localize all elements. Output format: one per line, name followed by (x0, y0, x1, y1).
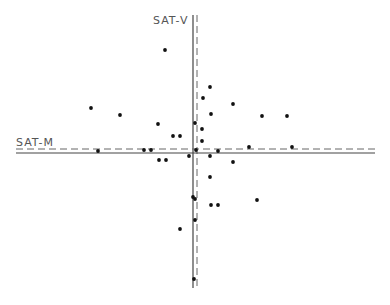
data-points (89, 48, 294, 281)
data-point (208, 175, 212, 179)
data-point (89, 106, 93, 110)
x-axis-label: SAT-M (16, 136, 54, 149)
data-point (255, 198, 259, 202)
data-point (208, 154, 212, 158)
data-point (209, 203, 213, 207)
data-point (96, 149, 100, 153)
data-point (200, 139, 204, 143)
data-point (231, 102, 235, 106)
scatter-plot: SAT-V SAT-M (0, 0, 390, 305)
data-point (285, 114, 289, 118)
data-point (163, 48, 167, 52)
data-point (231, 160, 235, 164)
data-point (156, 122, 160, 126)
data-point (290, 145, 294, 149)
data-point (201, 96, 205, 100)
data-point (187, 154, 191, 158)
data-point (260, 114, 264, 118)
data-point (208, 85, 212, 89)
data-point (193, 197, 197, 201)
data-point (178, 227, 182, 231)
data-point (247, 145, 251, 149)
data-point (193, 121, 197, 125)
data-point (178, 134, 182, 138)
data-point (209, 112, 213, 116)
data-point (149, 148, 153, 152)
data-point (216, 203, 220, 207)
data-point (142, 148, 146, 152)
data-point (193, 218, 197, 222)
data-point (200, 127, 204, 131)
data-point (171, 134, 175, 138)
data-point (216, 149, 220, 153)
y-axis-label: SAT-V (153, 14, 188, 27)
data-point (118, 113, 122, 117)
data-point (194, 148, 198, 152)
data-point (164, 158, 168, 162)
data-point (192, 277, 196, 281)
data-point (157, 158, 161, 162)
